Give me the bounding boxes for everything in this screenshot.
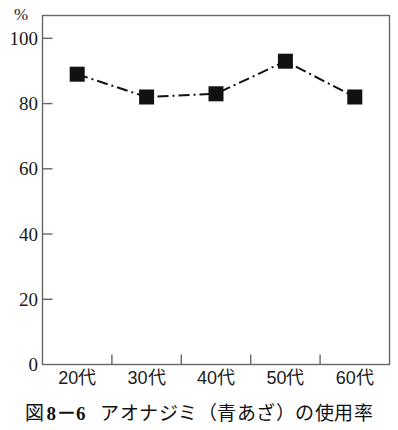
x-axis-label-30s: 30代 xyxy=(112,369,182,388)
caption-number: 8－6 xyxy=(45,402,89,426)
x-axis-label-50s: 50代 xyxy=(250,369,320,388)
caption-prefix: 図 xyxy=(25,402,45,426)
figure-caption: 図 8－6 アオナジミ（青あざ）の使用率 xyxy=(0,398,398,430)
chart-plot-area: % 100 80 60 40 20 0 20代 30代 40代 50代 60代 xyxy=(0,0,398,396)
figure-container: % 100 80 60 40 20 0 20代 30代 40代 50代 60代 … xyxy=(0,0,398,430)
x-axis-tick-labels: 20代 30代 40代 50代 60代 xyxy=(0,0,398,396)
x-axis-label-60s: 60代 xyxy=(320,369,390,388)
x-axis-label-40s: 40代 xyxy=(181,369,251,388)
x-axis-label-20s: 20代 xyxy=(42,369,112,388)
caption-text: アオナジミ（青あざ）の使用率 xyxy=(100,402,373,426)
